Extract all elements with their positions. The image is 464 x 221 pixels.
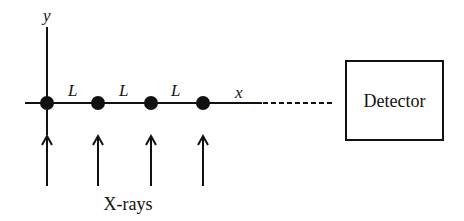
xray-scattering-diagram: y x L L L X-rays Detector [0,0,464,221]
spacing-label-3: L [170,81,180,100]
xray-arrow-2 [93,136,103,186]
atom-1 [40,96,54,110]
y-axis-label: y [41,6,51,25]
spacing-label-1: L [67,81,77,100]
x-axis-label: x [234,83,243,102]
xray-arrow-3 [146,136,156,186]
xray-arrow-1 [42,136,52,186]
xray-arrow-4 [198,136,208,186]
detector-label: Detector [364,91,426,111]
atom-3 [144,96,158,110]
spacing-label-2: L [118,81,128,100]
xray-label: X-rays [104,194,153,214]
xray-arrows [42,136,208,186]
atom-2 [91,96,105,110]
atom-4 [196,96,210,110]
